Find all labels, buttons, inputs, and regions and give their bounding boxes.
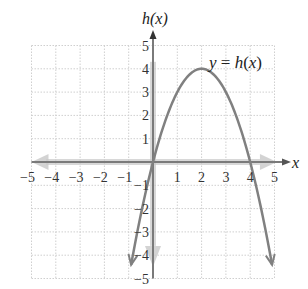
function-graph: −5−4−3−2−11234554321−1−2−3−4−5 h(x) x y …: [0, 0, 308, 289]
x-tick-label: −2: [93, 170, 108, 185]
x-tick-label: −4: [44, 170, 59, 185]
x-tick-label: 3: [222, 170, 229, 185]
y-tick-label: 4: [142, 62, 149, 77]
x-tick-label: 2: [198, 170, 205, 185]
y-tick-label: −4: [134, 248, 149, 263]
y-axis-label: h(x): [142, 10, 168, 28]
y-tick-label: 5: [142, 39, 149, 54]
x-tick-label: 4: [247, 170, 254, 185]
y-tick-label: −5: [134, 272, 149, 287]
function-label: y = h(x): [207, 53, 262, 72]
y-tick-label: −3: [134, 225, 149, 240]
y-tick-label: 2: [142, 108, 149, 123]
x-axis-label: x: [291, 154, 299, 171]
y-tick-label: −2: [134, 202, 149, 217]
y-tick-label: −1: [134, 178, 149, 193]
x-tick-label: 5: [271, 170, 278, 185]
x-tick-label: −3: [69, 170, 84, 185]
x-tick-label: −1: [117, 170, 132, 185]
x-tick-label: 1: [174, 170, 181, 185]
x-tick-label: −5: [20, 170, 35, 185]
y-tick-label: 1: [142, 132, 149, 147]
y-tick-label: 3: [142, 85, 149, 100]
